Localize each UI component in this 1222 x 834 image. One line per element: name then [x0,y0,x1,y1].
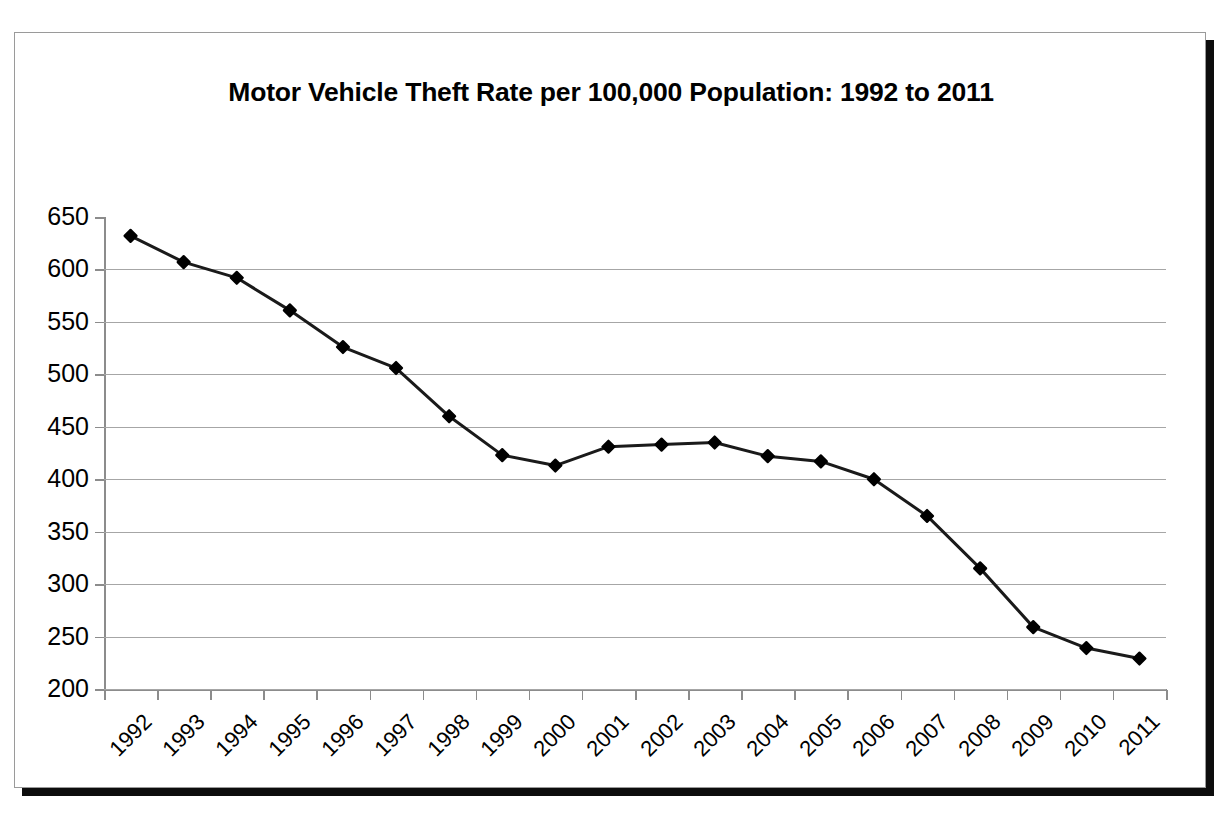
x-axis-tick [476,690,478,700]
y-axis-tick-label: 250 [19,624,89,649]
y-axis-tick [95,532,104,534]
x-axis-tick [1060,690,1062,700]
y-axis-tick [95,374,104,376]
data-point-marker [549,460,561,472]
y-axis-tick-label: 350 [19,519,89,544]
y-axis-tick [95,689,104,691]
x-axis-tick [263,690,265,700]
y-axis-tick-label: 400 [19,466,89,491]
x-axis-tick [370,690,372,700]
y-axis-tick [95,637,104,639]
x-axis-tick [741,690,743,700]
x-axis-tick [635,690,637,700]
y-axis-tick [95,584,104,586]
y-axis-tick [95,322,104,324]
figure-root: Motor Vehicle Theft Rate per 100,000 Pop… [0,0,1222,834]
x-axis-tick [157,690,159,700]
x-axis-tick [529,690,531,700]
y-axis-tick-label: 450 [19,414,89,439]
data-point-marker [709,437,721,449]
data-point-marker [178,256,190,268]
x-axis-tick [1166,690,1168,700]
y-axis-tick-label: 300 [19,571,89,596]
y-axis-tick [95,269,104,271]
chart-title: Motor Vehicle Theft Rate per 100,000 Pop… [15,77,1207,108]
plot-area [104,217,1166,689]
x-axis-tick [582,690,584,700]
x-axis-tick [901,690,903,700]
x-axis-tick [316,690,318,700]
data-line [131,236,1140,659]
data-point-marker [656,439,668,451]
y-axis-tick-label: 550 [19,309,89,334]
y-axis-tick [95,479,104,481]
series-layer [104,217,1166,689]
y-axis-tick-label: 650 [19,204,89,229]
y-axis-tick-label: 200 [19,676,89,701]
y-axis-tick [95,217,104,219]
x-axis-tick [794,690,796,700]
y-axis-labels: 650600550500450400350300250200 [15,33,89,789]
x-axis-tick [847,690,849,700]
data-point-marker [815,455,827,467]
y-axis-tick-label: 600 [19,256,89,281]
data-point-marker [762,450,774,462]
y-axis-tick-label: 500 [19,361,89,386]
x-axis-tick [954,690,956,700]
x-axis-tick [688,690,690,700]
data-point-marker [1133,653,1145,665]
data-point-marker [125,230,137,242]
x-axis-tick [210,690,212,700]
chart-frame: Motor Vehicle Theft Rate per 100,000 Pop… [14,32,1206,788]
data-point-marker [602,441,614,453]
y-axis-tick [95,427,104,429]
x-axis-tick [104,690,106,700]
gridline [104,689,1166,690]
x-axis-tick [423,690,425,700]
x-axis-tick [1113,690,1115,700]
data-point-marker [1080,642,1092,654]
x-axis-tick [1007,690,1009,700]
